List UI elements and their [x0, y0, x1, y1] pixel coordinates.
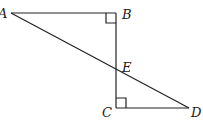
- point-label-b: B: [121, 7, 132, 22]
- point-label-e: E: [121, 60, 132, 75]
- point-label-d: D: [190, 105, 202, 120]
- right-angle-marker-c: [116, 98, 126, 108]
- point-label-c: C: [102, 105, 112, 120]
- geometry-diagram: A B E C D: [0, 0, 203, 121]
- segment-ad: [11, 13, 189, 108]
- right-angle-marker-b: [106, 13, 116, 23]
- point-label-a: A: [0, 6, 7, 21]
